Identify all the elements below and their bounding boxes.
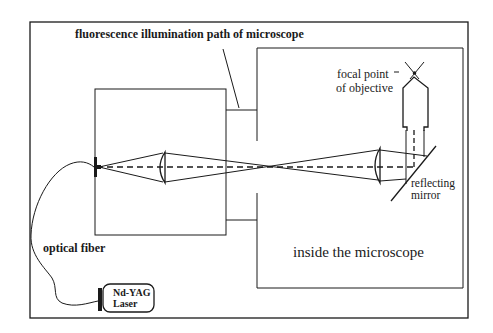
relay-lens [375, 148, 380, 183]
objective [403, 77, 428, 131]
illumination-port [226, 110, 257, 220]
focusing-beam [165, 150, 378, 182]
title-label: fluorescence illumination path of micros… [75, 27, 305, 41]
optical-fiber-label: optical fiber [43, 241, 106, 255]
laser-label-line2: Laser [113, 298, 138, 309]
mirror-label-line2: mirror [411, 189, 441, 201]
focal-point-label-line1: focal point [337, 67, 389, 81]
title-leader-line [223, 49, 239, 108]
optical-fiber [31, 162, 98, 305]
reflected-beam [406, 130, 424, 184]
optical-setup-diagram: fluorescence illumination path of micros… [0, 0, 493, 333]
nd-yag-laser: Nd-YAG Laser [98, 284, 154, 312]
fiber-connector [94, 157, 97, 177]
focal-point-icon [405, 62, 424, 79]
focal-point-label-line2: of objective [336, 81, 393, 95]
inside-microscope-label: inside the microscope [293, 244, 424, 260]
laser-label-line1: Nd-YAG [113, 287, 151, 298]
